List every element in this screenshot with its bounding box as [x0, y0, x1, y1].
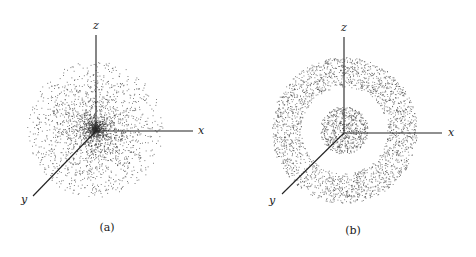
figure: z x y (a) z x y (b) [0, 0, 476, 257]
caption-b: (b) [345, 224, 361, 237]
panel-b: z x y (b) [268, 21, 455, 237]
y-axis-label-b: y [268, 194, 276, 207]
x-axis-label-a: x [198, 124, 205, 137]
y-axis-label-a: y [20, 193, 28, 206]
point-cloud-a [27, 62, 163, 197]
y-axis-b [282, 133, 344, 194]
caption-a: (a) [99, 221, 114, 234]
z-axis-label-a: z [92, 19, 99, 32]
point-cloud-b [272, 57, 417, 203]
z-axis-label-b: z [340, 21, 347, 34]
x-axis-label-b: x [448, 126, 455, 139]
panel-a: z x y (a) [20, 19, 205, 234]
y-axis-a [33, 131, 96, 196]
